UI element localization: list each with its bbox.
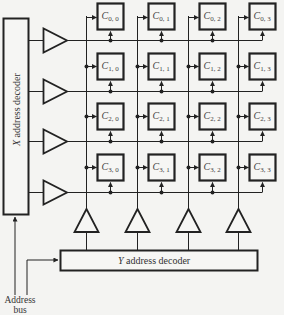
junction-dot (160, 140, 164, 144)
cell-c-3-2: C3, 2 (187, 155, 226, 195)
cell-c-0-2: C0, 2 (189, 4, 226, 43)
cell-c-0-3: C0, 3 (239, 4, 276, 41)
cell-c-1-3: C1, 3 (237, 54, 276, 92)
junction-dot (237, 115, 241, 119)
junction-dot (187, 65, 191, 69)
memory-array-diagram: X address decoder Y address decoder Addr… (0, 0, 284, 315)
cell-c-1-2: C1, 2 (187, 54, 226, 94)
junction-dot (237, 166, 241, 170)
junction-dot (109, 140, 113, 144)
junction-dot (85, 166, 89, 170)
junction-dot (85, 65, 89, 69)
address-bus-label-2: bus (13, 305, 27, 315)
cell-c-3-1: C3, 1 (136, 155, 175, 195)
cell-c-2-2: C2, 2 (187, 104, 226, 144)
column-driver-triangle (177, 209, 201, 232)
junction-dot (187, 115, 191, 119)
cell-c-2-0: C2, 0 (85, 104, 124, 144)
column-driver-triangle (75, 209, 99, 232)
cell-c-3-0: C3, 0 (85, 155, 124, 195)
cell-c-1-0: C1, 0 (85, 54, 124, 94)
cell-grid: C0, 0C0, 1C0, 2C0, 3C1, 0C1, 1C1, 2C1, 3… (29, 4, 276, 251)
junction-dot (160, 191, 164, 195)
address-bus: Address bus (4, 217, 58, 315)
junction-dot (109, 191, 113, 195)
junction-dot (109, 90, 113, 94)
row-driver-triangle (44, 80, 68, 104)
row-driver-triangle (44, 181, 68, 205)
svg-text:X address decoder: X address decoder (11, 73, 22, 147)
junction-dot (136, 115, 140, 119)
y-decoder-label: address decoder (124, 255, 191, 266)
x-address-decoder: X address decoder (4, 19, 29, 215)
junction-dot (160, 39, 164, 43)
svg-text:Y address decoder: Y address decoder (118, 255, 191, 266)
junction-dot (187, 166, 191, 170)
junction-dot (109, 39, 113, 43)
y-address-decoder: Y address decoder (61, 251, 258, 271)
junction-dot (211, 39, 215, 43)
cell-c-3-3: C3, 3 (237, 155, 276, 193)
cell-c-2-3: C2, 3 (237, 104, 276, 142)
junction-dot (211, 140, 215, 144)
address-bus-label-1: Address (4, 295, 35, 305)
junction-dot (136, 166, 140, 170)
junction-dot (237, 65, 241, 69)
row-driver-triangle (44, 29, 68, 53)
column-driver-triangle (126, 209, 150, 232)
row-driver-triangle (44, 130, 68, 154)
junction-dot (160, 90, 164, 94)
cell-c-0-1: C0, 1 (138, 4, 175, 43)
diagram-svg: X address decoder Y address decoder Addr… (0, 0, 284, 315)
cell-c-1-1: C1, 1 (136, 54, 175, 94)
cell-c-0-0: C0, 0 (87, 4, 124, 43)
junction-dot (211, 191, 215, 195)
column-driver-triangle (227, 209, 251, 232)
junction-dot (85, 115, 89, 119)
x-decoder-label: address decoder (11, 73, 22, 140)
cell-c-2-1: C2, 1 (136, 104, 175, 144)
junction-dot (211, 90, 215, 94)
junction-dot (136, 65, 140, 69)
